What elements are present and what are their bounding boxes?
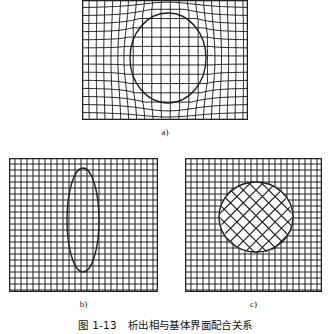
panel-b-label: b): [64, 299, 104, 309]
figure-root: a) b) c) 图 1-13析出相与基体界面配合关系: [0, 0, 331, 334]
figure-caption-number: 图 1-13: [78, 319, 116, 331]
panel-a-diagram: [82, 0, 248, 120]
panel-a-label: a): [145, 127, 185, 137]
panel-c-incoherent-interface: [185, 158, 322, 292]
figure-caption-text: 析出相与基体界面配合关系: [128, 319, 253, 331]
panel-b-semicoherent-interface: [9, 158, 158, 292]
panel-c-label: c): [234, 299, 274, 309]
panel-b-diagram: [9, 158, 158, 292]
figure-caption: 图 1-13析出相与基体界面配合关系: [0, 317, 331, 332]
panel-a-coherent-interface: [82, 0, 248, 120]
panel-c-diagram: [185, 158, 322, 292]
